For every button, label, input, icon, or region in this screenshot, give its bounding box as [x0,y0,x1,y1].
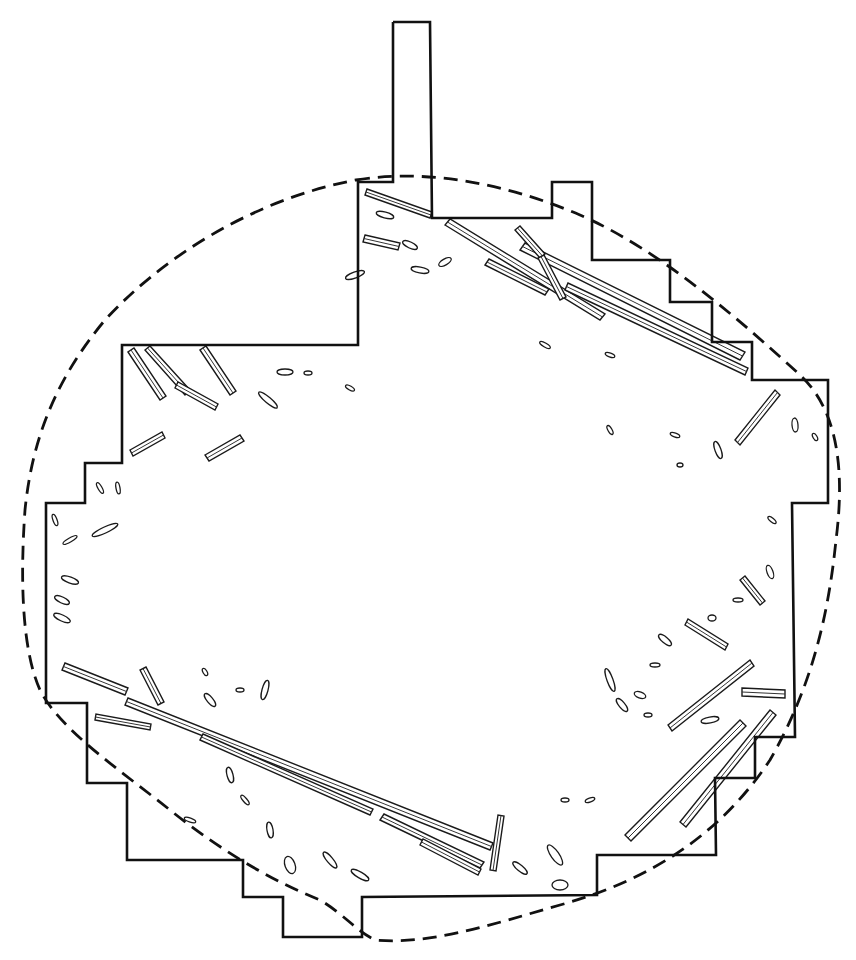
charcoal-fragment [791,418,798,432]
charcoal-fragment [61,574,80,586]
charcoal-fragment [53,611,72,624]
charcoal-fragment [376,210,395,220]
charcoal-fragment [203,692,218,708]
timber-grain-line [177,385,217,407]
timber-grain-line [143,669,161,704]
charcoal-fragment [644,713,652,717]
charcoal-fragment [615,697,630,713]
charcoal-fragment [552,880,568,890]
charcoal-fragment [266,822,275,839]
charcoal-fragment [545,843,565,867]
timber-grain-line [132,435,164,453]
timber-grain-line [567,287,747,372]
charcoal-fragment [257,390,279,410]
charcoal-fragment [304,371,312,375]
charcoal-fragment [277,369,293,375]
excavation-limit-outline [46,22,828,937]
timber-grain-line [687,622,727,647]
timber-layer [62,189,785,875]
charcoal-fragment [437,256,452,268]
charcoal-fragment [201,668,208,677]
charcoal-fragment [401,239,418,251]
timber-grain-line [207,438,242,458]
charcoal-fragment [701,715,720,724]
charcoal-fragment [91,521,119,538]
charcoal-fragment [184,816,197,824]
charcoal-fragment [236,688,244,692]
charcoal-fragment [539,340,551,349]
charcoal-fragment [240,794,251,806]
charcoal-fragment [767,515,777,524]
charcoal-fragment [53,594,70,606]
charcoal-fragment [62,534,78,545]
charcoal-fragment [260,680,271,701]
charcoal-fragment [345,269,366,281]
charcoal-fragment [585,796,596,803]
charcoal-fragment [712,441,724,460]
timber-grain-line [366,192,431,215]
charcoal-fragment [650,663,660,667]
timber-grain-line [738,393,778,443]
charcoal-fragment [411,265,430,274]
charcoal-fragment [605,351,616,358]
charcoal-fragment [708,615,716,621]
timber-grain-line [743,578,763,603]
timber-grain-line [203,348,233,393]
charcoal-fragment [350,867,370,882]
charcoal-fragment [115,482,121,495]
charcoal-fragment [51,514,59,527]
charcoal-fragment [95,482,104,494]
charcoal-fragment [321,850,338,869]
charcoal-fragment [282,855,298,875]
charcoal-fragment [633,690,646,700]
charcoal-fragment [511,860,529,876]
fragment-layer [51,210,819,890]
charcoal-fragment [657,633,673,648]
charcoal-fragment [811,433,818,442]
charcoal-fragment [561,798,569,802]
charcoal-fragment [225,766,235,783]
timber-grain-line [64,667,127,692]
charcoal-fragment [606,425,614,436]
charcoal-fragment [345,384,356,392]
charcoal-fragment [765,564,775,579]
excavation-plan-drawing [0,0,856,960]
charcoal-fragment [670,431,681,438]
charcoal-fragment [677,463,683,467]
charcoal-fragment [603,668,617,693]
timber-grain-line [127,702,492,847]
charcoal-fragment [733,598,743,602]
